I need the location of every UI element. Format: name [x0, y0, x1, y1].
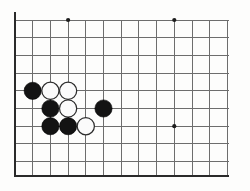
stone-white-2[interactable] [60, 82, 77, 99]
go-board-diagram [0, 0, 250, 191]
hoshi-top-right-icon [172, 18, 176, 22]
stone-black-3[interactable] [95, 100, 112, 117]
stone-black-1[interactable] [24, 82, 41, 99]
hoshi-bottom-right-icon [172, 124, 176, 128]
stone-black-5[interactable] [60, 118, 77, 135]
hoshi-top-left-icon [66, 18, 70, 22]
go-board-canvas[interactable] [0, 0, 250, 191]
stone-black-2[interactable] [42, 100, 59, 117]
stone-white-3[interactable] [60, 100, 77, 117]
stone-white-4[interactable] [77, 118, 94, 135]
stone-black-4[interactable] [42, 118, 59, 135]
stone-white-1[interactable] [42, 82, 59, 99]
